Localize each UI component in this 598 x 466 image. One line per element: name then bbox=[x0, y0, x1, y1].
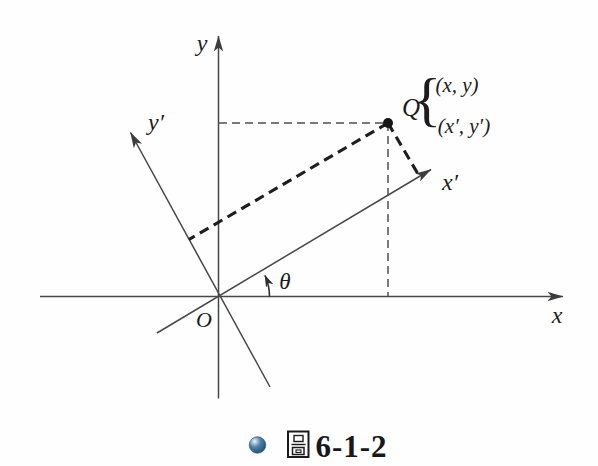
rotation-of-axes-diagram: y y′ x x′ θ O Q { (x, y) (x′, y′) 6-1-2 bbox=[0, 0, 598, 466]
coords-xy-label: (x, y) bbox=[435, 73, 478, 97]
caption-number: 6-1-2 bbox=[315, 429, 387, 464]
figure-char-icon bbox=[288, 432, 309, 458]
x-prime-axis-label: x′ bbox=[441, 169, 459, 195]
origin-label: O bbox=[196, 307, 212, 332]
figure-6-1-2: y y′ x x′ θ O Q { (x, y) (x′, y′) 6-1-2 bbox=[0, 0, 598, 466]
y-prime-axis-line bbox=[131, 133, 271, 388]
y-axis-label: y bbox=[195, 30, 208, 56]
y-prime-axis-label: y′ bbox=[146, 109, 165, 135]
point-q-dot bbox=[383, 118, 393, 128]
coords-x-prime-y-prime-label: (x′, y′) bbox=[438, 114, 490, 138]
axes bbox=[40, 36, 563, 399]
caption-bullet-icon bbox=[249, 437, 266, 454]
angle-arc-arrow bbox=[265, 276, 270, 297]
theta-label: θ bbox=[279, 269, 290, 294]
caption: 6-1-2 bbox=[249, 429, 387, 464]
projection-lines bbox=[189, 123, 420, 296]
x-axis-label: x bbox=[551, 302, 563, 328]
